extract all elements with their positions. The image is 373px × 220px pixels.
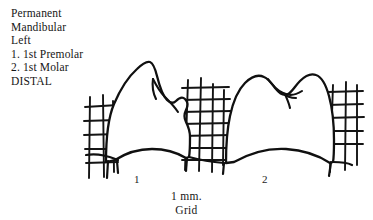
cervical-line-right [333, 162, 352, 165]
root-stub-left [107, 161, 118, 178]
scale-caption: 1 mm. Grid [0, 190, 373, 217]
tooth-label-2: 2 [262, 173, 268, 185]
root-stub-right [329, 162, 331, 176]
dental-figure: Permanent Mandibular Left 1. 1st Premola… [0, 0, 373, 220]
scale-value: 1 mm. [0, 190, 373, 204]
scale-unit: Grid [0, 204, 373, 218]
tooth-label-1: 1 [134, 173, 140, 185]
tooth-line-drawing [0, 0, 373, 220]
tooth-2-molar-outline [226, 74, 334, 163]
